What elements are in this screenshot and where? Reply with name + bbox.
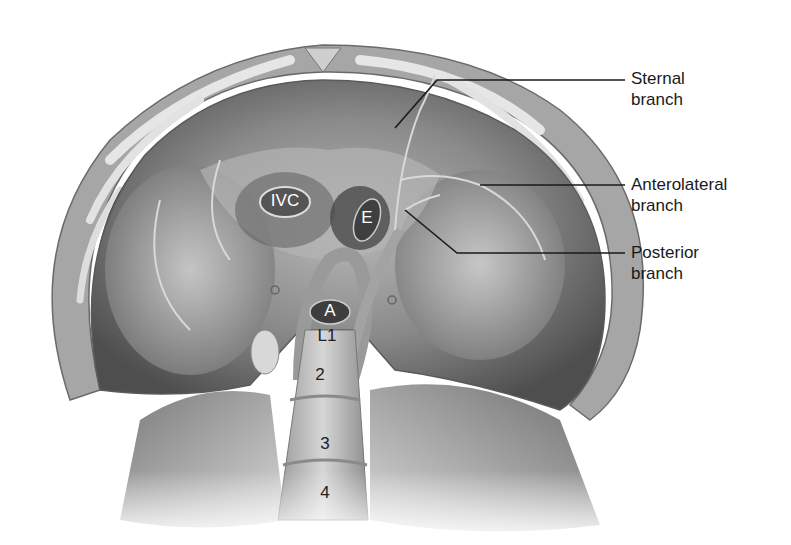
label-l2-vertebra: 2: [311, 365, 329, 385]
callout-label-line1: Sternal: [631, 68, 685, 89]
label-l3-vertebra: 3: [316, 434, 334, 454]
callout-posterior-branch: Posterior branch: [631, 242, 699, 284]
label-ivc: IVC: [264, 191, 306, 211]
callout-label-line1: Posterior: [631, 242, 699, 263]
label-esophagus: E: [358, 208, 376, 228]
label-l1-vertebra: L1: [314, 326, 340, 346]
callout-label-line1: Anterolateral: [631, 174, 727, 195]
diaphragm-illustration: Sternal branch Anterolateral branch Post…: [0, 0, 791, 545]
label-l4-vertebra: 4: [316, 483, 334, 503]
callout-sternal-branch: Sternal branch: [631, 68, 685, 110]
label-aorta: A: [320, 301, 340, 321]
callout-anterolateral-branch: Anterolateral branch: [631, 174, 727, 216]
callout-label-line2: branch: [631, 195, 727, 216]
callout-label-line2: branch: [631, 263, 699, 284]
callout-label-line2: branch: [631, 89, 685, 110]
